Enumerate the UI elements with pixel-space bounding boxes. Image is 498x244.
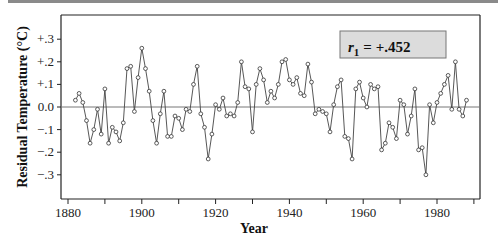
data-point xyxy=(387,121,391,125)
data-point xyxy=(398,98,402,102)
data-point xyxy=(254,83,258,87)
x-tick-label: 1980 xyxy=(424,205,450,220)
data-point xyxy=(144,67,148,71)
data-point xyxy=(92,128,96,132)
data-point xyxy=(151,119,155,123)
data-point xyxy=(299,92,303,96)
data-point xyxy=(169,135,173,139)
data-point xyxy=(321,110,325,114)
y-tick-label: +.1 xyxy=(37,76,54,91)
data-point xyxy=(291,83,295,87)
data-point xyxy=(280,60,284,64)
data-point xyxy=(136,76,140,80)
data-point xyxy=(450,107,454,111)
correlation-annotation: r1= +.452 xyxy=(340,31,446,58)
data-point xyxy=(118,139,122,143)
data-point xyxy=(243,85,247,89)
data-point xyxy=(114,130,118,134)
y-tick-label: −.2 xyxy=(37,144,54,159)
data-point xyxy=(214,103,218,107)
data-point xyxy=(269,89,273,93)
x-tick-label: 1920 xyxy=(203,205,229,220)
data-point xyxy=(166,135,170,139)
data-point xyxy=(372,87,376,91)
data-point xyxy=(265,101,269,105)
data-point xyxy=(121,121,125,125)
y-tick-label: −.1 xyxy=(37,122,54,137)
annotation-subscript: 1 xyxy=(354,46,360,58)
data-point xyxy=(310,80,314,84)
y-axis-title: Residual Temperature (°C) xyxy=(15,26,31,188)
data-point xyxy=(177,116,181,120)
data-point xyxy=(420,146,424,150)
data-point xyxy=(336,85,340,89)
data-point xyxy=(324,112,328,116)
y-tick-label: +.3 xyxy=(37,31,54,46)
data-point xyxy=(354,87,358,91)
y-tick-label: 0.0 xyxy=(38,99,54,114)
data-point xyxy=(369,83,373,87)
data-point xyxy=(295,76,299,80)
data-point xyxy=(395,137,399,141)
data-point xyxy=(225,114,229,118)
data-point xyxy=(99,132,103,136)
data-point xyxy=(192,83,196,87)
data-point xyxy=(158,112,162,116)
data-point xyxy=(424,173,428,177)
data-point xyxy=(288,78,292,82)
data-point xyxy=(376,85,380,89)
data-point xyxy=(383,141,387,145)
data-point xyxy=(306,62,310,66)
x-tick-label: 1900 xyxy=(129,205,155,220)
data-point xyxy=(417,148,421,152)
data-point xyxy=(406,132,410,136)
data-point xyxy=(454,60,458,64)
data-point xyxy=(380,148,384,152)
data-point xyxy=(240,60,244,64)
data-point xyxy=(431,121,435,125)
data-point xyxy=(140,46,144,50)
x-axis-title: Year xyxy=(240,221,268,236)
data-point xyxy=(162,89,166,93)
x-axis: 188019001920194019601980 xyxy=(55,199,474,220)
data-point xyxy=(439,92,443,96)
data-point xyxy=(409,114,413,118)
data-point xyxy=(210,132,214,136)
data-point xyxy=(129,64,133,68)
data-point xyxy=(221,96,225,100)
data-point xyxy=(107,141,111,145)
data-point xyxy=(258,67,262,71)
x-tick-label: 1940 xyxy=(276,205,302,220)
data-point xyxy=(343,135,347,139)
data-point xyxy=(435,101,439,105)
data-point xyxy=(184,107,188,111)
data-point xyxy=(173,114,177,118)
data-point xyxy=(203,125,207,129)
data-point xyxy=(361,96,365,100)
data-point xyxy=(199,112,203,116)
data-point xyxy=(262,78,266,82)
data-point xyxy=(247,87,251,91)
data-point xyxy=(428,103,432,107)
data-point xyxy=(251,130,255,134)
data-point xyxy=(402,103,406,107)
data-point xyxy=(217,107,221,111)
data-point xyxy=(229,112,233,116)
data-point xyxy=(155,141,159,145)
data-point xyxy=(332,103,336,107)
data-point xyxy=(81,101,85,105)
data-point xyxy=(446,74,450,78)
data-point xyxy=(302,94,306,98)
data-point xyxy=(103,87,107,91)
x-tick-label: 1880 xyxy=(55,205,81,220)
annotation-value: = +.452 xyxy=(363,39,410,55)
data-point xyxy=(188,110,192,114)
data-point xyxy=(273,96,277,100)
y-axis: +.3+.2+.10.0−.1−.2−.3 xyxy=(37,31,61,182)
data-point xyxy=(88,141,92,145)
data-point xyxy=(317,107,321,111)
data-point xyxy=(413,87,417,91)
data-point xyxy=(195,64,199,68)
data-point xyxy=(465,98,469,102)
data-point xyxy=(96,107,100,111)
